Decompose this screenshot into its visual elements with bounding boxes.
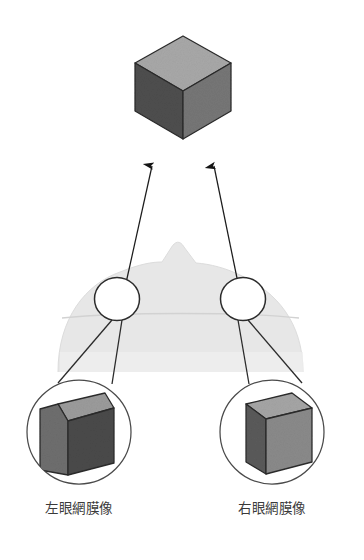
right-cube-front-face <box>266 408 312 474</box>
right-eye-circle <box>221 278 266 321</box>
right-retinal-caption: 右眼網膜像 <box>238 500 306 516</box>
left-retinal-cube <box>40 393 114 475</box>
binocular-disparity-figure: 左眼網膜像 右眼網膜像 <box>0 0 364 560</box>
left-retinal-caption: 左眼網膜像 <box>45 500 113 516</box>
left-eye-circle <box>95 278 140 321</box>
right-retinal-cube <box>246 393 312 474</box>
head-lower-shade <box>60 352 303 372</box>
figure-root: 左眼網膜像 右眼網膜像 <box>0 0 364 560</box>
left-cube-side-face <box>40 404 68 475</box>
